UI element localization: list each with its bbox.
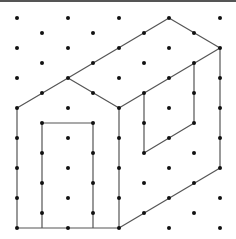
grid-dot — [218, 76, 222, 80]
grid-dot — [218, 16, 222, 20]
grid-dot — [167, 196, 171, 200]
grid-dot — [117, 76, 121, 80]
grid-dot — [192, 181, 196, 185]
grid-dot — [192, 61, 196, 65]
grid-dot — [218, 46, 222, 50]
grid-dot — [192, 121, 196, 125]
grid-dot — [66, 76, 70, 80]
grid-dot — [40, 211, 44, 215]
grid-dot — [142, 181, 146, 185]
grid-dot — [91, 61, 95, 65]
grid-dot — [66, 196, 70, 200]
grid-dot — [15, 166, 19, 170]
grid-dot — [15, 196, 19, 200]
grid-dot — [142, 211, 146, 215]
grid-dot — [142, 151, 146, 155]
grid-dot — [40, 181, 44, 185]
grid-dot — [218, 166, 222, 170]
grid-dot — [15, 226, 19, 230]
grid-dot — [167, 136, 171, 140]
grid-dot — [192, 211, 196, 215]
grid-dot — [218, 196, 222, 200]
grid-dot — [218, 226, 222, 230]
grid-dot — [192, 31, 196, 35]
grid-dot — [218, 106, 222, 110]
grid-dot — [117, 166, 121, 170]
grid-dot — [142, 91, 146, 95]
grid-dot — [15, 16, 19, 20]
house-isometric-diagram — [0, 0, 236, 239]
grid-dot — [167, 106, 171, 110]
grid-dot — [40, 151, 44, 155]
grid-dot — [192, 91, 196, 95]
grid-dot — [40, 31, 44, 35]
grid-dot — [66, 226, 70, 230]
grid-dot — [15, 136, 19, 140]
grid-dot — [167, 166, 171, 170]
grid-dot — [66, 16, 70, 20]
grid-dot — [40, 121, 44, 125]
grid-dot — [117, 16, 121, 20]
grid-dot — [91, 31, 95, 35]
grid-dot — [66, 166, 70, 170]
grid-dot — [91, 91, 95, 95]
grid-dot — [167, 46, 171, 50]
grid-dot — [167, 16, 171, 20]
grid-dot — [117, 106, 121, 110]
grid-dot — [117, 196, 121, 200]
grid-dot — [15, 106, 19, 110]
grid-dot — [15, 46, 19, 50]
grid-dot — [15, 76, 19, 80]
grid-dot — [66, 46, 70, 50]
grid-dot — [167, 226, 171, 230]
grid-dot — [117, 136, 121, 140]
grid-dot — [142, 61, 146, 65]
grid-dot — [40, 61, 44, 65]
grid-dot — [66, 136, 70, 140]
grid-dot — [192, 151, 196, 155]
grid-dot — [218, 136, 222, 140]
grid-dot — [91, 121, 95, 125]
grid-dot — [40, 91, 44, 95]
grid-dot — [91, 211, 95, 215]
grid-dot — [91, 181, 95, 185]
grid-dot — [142, 31, 146, 35]
grid-dot — [91, 151, 95, 155]
front-gable-wall — [17, 78, 119, 228]
grid-dot — [167, 76, 171, 80]
grid-dot — [66, 106, 70, 110]
grid-dot — [117, 46, 121, 50]
grid-dot — [142, 121, 146, 125]
grid-dot — [117, 226, 121, 230]
